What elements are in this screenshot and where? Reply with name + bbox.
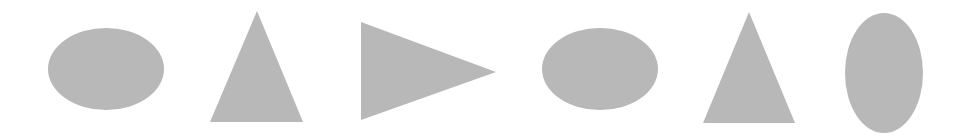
shapes-svg [0, 0, 958, 139]
vertical-ellipse-shape [845, 13, 923, 133]
shapes-canvas [0, 0, 958, 139]
triangle-up-shape-1 [210, 11, 303, 122]
ellipse-shape-2 [542, 28, 658, 110]
triangle-up-shape-2 [703, 12, 795, 123]
ellipse-shape-1 [48, 28, 164, 110]
triangle-right-shape [361, 22, 496, 120]
